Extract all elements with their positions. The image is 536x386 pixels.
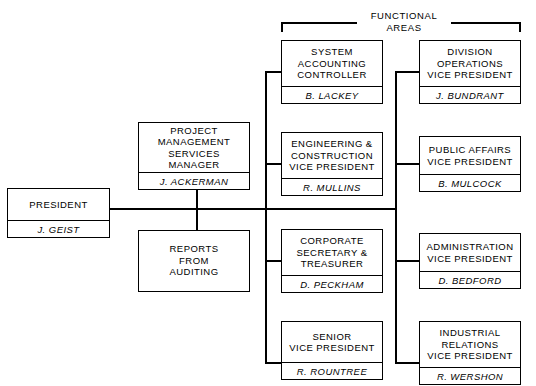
bracket-tick-left (281, 22, 283, 32)
node-engineering-construction[interactable]: ENGINEERING & CONSTRUCTION VICE PRESIDEN… (281, 132, 383, 196)
connector-col4-trunk (395, 71, 397, 364)
bracket-line-left (281, 22, 359, 24)
node-senior-vice-president[interactable]: SENIOR VICE PRESIDENT R. ROUNTREE (281, 321, 383, 380)
node-division-operations-title: DIVISION OPERATIONS VICE PRESIDENT (420, 41, 520, 86)
node-industrial-relations-title: INDUSTRIAL RELATIONS VICE PRESIDENT (420, 322, 520, 367)
functional-areas-label: FUNCTIONAL AREAS (357, 10, 451, 33)
node-president-title: PRESIDENT (8, 189, 109, 220)
org-chart: FUNCTIONAL AREAS PRESIDENT J. GEIST PROJ… (0, 0, 536, 386)
bracket-tick-right (519, 22, 521, 32)
connector-stub-industrial-relations (395, 362, 420, 364)
connector-stub-public-affairs (395, 163, 420, 165)
node-system-accounting[interactable]: SYSTEM ACCOUNTING CONTROLLER B. LACKEY (281, 40, 383, 104)
connector-stub-corporate-secretary (265, 260, 281, 262)
node-reports-auditing[interactable]: REPORTS FROM AUDITING (138, 230, 250, 292)
node-public-affairs-title: PUBLIC AFFAIRS VICE PRESIDENT (420, 137, 520, 174)
node-corporate-secretary-person: D. PECKHAM (282, 275, 382, 292)
node-engineering-construction-person: R. MULLINS (282, 178, 382, 195)
node-system-accounting-title: SYSTEM ACCOUNTING CONTROLLER (282, 41, 382, 86)
node-senior-vice-president-person: R. ROUNTREE (282, 362, 382, 379)
node-administration-person: D. BEDFORD (420, 271, 520, 288)
bracket-line-right (449, 22, 520, 24)
node-senior-vice-president-title: SENIOR VICE PRESIDENT (282, 322, 382, 362)
node-administration[interactable]: ADMINISTRATION VICE PRESIDENT D. BEDFORD (419, 233, 521, 289)
node-public-affairs-person: B. MULCOCK (420, 174, 520, 191)
connector-stub-senior-vp (265, 362, 281, 364)
node-president-person: J. GEIST (8, 220, 109, 237)
connector-col3-to-col4 (265, 208, 396, 210)
node-public-affairs[interactable]: PUBLIC AFFAIRS VICE PRESIDENT B. MULCOCK (419, 136, 521, 192)
node-division-operations[interactable]: DIVISION OPERATIONS VICE PRESIDENT J. BU… (419, 40, 521, 104)
node-engineering-construction-title: ENGINEERING & CONSTRUCTION VICE PRESIDEN… (282, 133, 382, 178)
node-corporate-secretary[interactable]: CORPORATE SECRETARY & TREASURER D. PECKH… (281, 229, 383, 293)
connector-president-horizontal (109, 208, 267, 210)
connector-stub-system-accounting (265, 71, 281, 73)
node-president[interactable]: PRESIDENT J. GEIST (7, 188, 110, 238)
node-system-accounting-person: B. LACKEY (282, 86, 382, 103)
node-project-management-person: J. ACKERMAN (139, 172, 249, 189)
connector-stub-engineering (265, 163, 281, 165)
node-project-management-title: PROJECT MANAGEMENT SERVICES MANAGER (139, 123, 249, 172)
node-industrial-relations-person: R. WERSHON (420, 367, 520, 384)
node-reports-auditing-title: REPORTS FROM AUDITING (139, 231, 249, 291)
node-project-management[interactable]: PROJECT MANAGEMENT SERVICES MANAGER J. A… (138, 122, 250, 190)
node-industrial-relations[interactable]: INDUSTRIAL RELATIONS VICE PRESIDENT R. W… (419, 321, 521, 385)
connector-stub-division-operations (395, 71, 420, 73)
node-corporate-secretary-title: CORPORATE SECRETARY & TREASURER (282, 230, 382, 275)
connector-col3-trunk (265, 71, 267, 364)
node-division-operations-person: J. BUNDRANT (420, 86, 520, 103)
connector-stub-administration (395, 260, 420, 262)
node-administration-title: ADMINISTRATION VICE PRESIDENT (420, 234, 520, 271)
